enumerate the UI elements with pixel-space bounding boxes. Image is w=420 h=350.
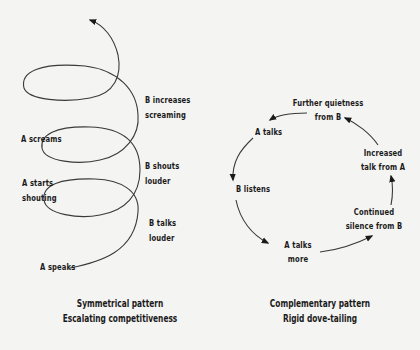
diagram-page: A speaks B talks louder A starts shoutin… (0, 0, 420, 350)
label-b-shouts-louder-line2: louder (145, 176, 170, 187)
label-b-shouts-louder-line1: B shouts (145, 161, 179, 172)
label-b-increases-screaming-line1: B increases (145, 95, 190, 106)
label-b-increases-screaming-line2: screaming (145, 110, 186, 121)
arrow-a-talks-more-to-continued-silence (320, 236, 372, 252)
caption-symmetrical-line2: Escalating competitiveness (51, 312, 189, 327)
label-a-talks-more-line2: more (279, 254, 318, 265)
caption-symmetrical: Symmetrical pattern Escalating competiti… (51, 297, 189, 326)
label-a-starts-shouting-line2: shouting (22, 193, 57, 204)
arrow-a-talks-to-b-listens (233, 138, 253, 180)
label-b-talks-louder-line1: B talks (149, 218, 176, 229)
caption-complementary-line2: Rigid dove-tailing (256, 312, 385, 327)
arrow-continued-silence-to-increased-talk (391, 176, 393, 205)
label-b-listens: B listens (236, 184, 270, 195)
label-continued-silence-line2: silence from B (340, 221, 409, 232)
label-a-talks: A talks (255, 127, 282, 138)
label-further-quietness-line1: Further quietness (293, 98, 363, 109)
label-increased-talk-line2: talk from A (352, 162, 414, 173)
label-a-starts-shouting-line1: A starts (22, 178, 53, 189)
caption-complementary: Complementary pattern Rigid dove-tailing (256, 297, 385, 326)
caption-symmetrical-line1: Symmetrical pattern (51, 297, 189, 312)
label-b-talks-louder-line2: louder (149, 233, 174, 244)
label-a-screams: A screams (21, 134, 62, 145)
caption-complementary-line1: Complementary pattern (256, 297, 385, 312)
label-a-speaks: A speaks (40, 262, 75, 273)
label-further-quietness-line2: from B (293, 112, 363, 123)
label-increased-talk-line1: Increased (352, 148, 414, 159)
label-a-talks-more-line1: A talks (279, 240, 318, 251)
arrow-b-listens-to-a-talks-more (236, 200, 268, 243)
label-continued-silence-line1: Continued (340, 207, 409, 218)
